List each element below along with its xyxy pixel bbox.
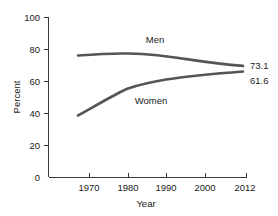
series-label-men: Men [146, 34, 164, 45]
x-tick-label-1970: 1970 [78, 182, 99, 193]
chart-canvas: 100 80 60 40 20 0 1970 1980 1990 2000 20… [0, 0, 278, 216]
y-tick-label-80: 80 [29, 44, 40, 55]
series-line-women [78, 72, 243, 116]
x-tick-label-1980: 1980 [117, 182, 138, 193]
line-chart: 100 80 60 40 20 0 1970 1980 1990 2000 20… [0, 0, 278, 216]
series-label-women: Women [135, 95, 168, 106]
y-tick-label-40: 40 [29, 108, 40, 119]
x-axis-title: Year [136, 198, 155, 209]
series-line-men [78, 53, 243, 65]
y-tick-label-100: 100 [24, 12, 40, 23]
x-tick-label-1990: 1990 [155, 182, 176, 193]
end-value-men: 73.1 [250, 60, 269, 71]
x-tick-label-2012: 2012 [234, 182, 255, 193]
end-value-women: 61.6 [250, 75, 269, 86]
y-tick-label-60: 60 [29, 76, 40, 87]
x-tick-label-2000: 2000 [194, 182, 215, 193]
y-tick-label-20: 20 [29, 140, 40, 151]
y-tick-label-0: 0 [35, 172, 40, 183]
y-axis-title: Percent [11, 80, 22, 113]
